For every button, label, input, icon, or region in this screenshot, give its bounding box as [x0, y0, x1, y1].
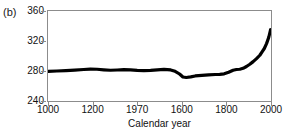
x-axis-tick-mark	[93, 102, 94, 106]
x-axis-tick-mark	[48, 102, 49, 106]
x-axis-tick-mark	[182, 102, 183, 106]
y-axis-title: Atmospheric pCO2 (µatm)	[0, 8, 1, 100]
y-axis-tick-mark	[41, 71, 46, 72]
x-axis-title: Calendar year	[47, 118, 272, 130]
y-axis-tick-mark	[41, 101, 46, 102]
series-line-atmospheric-pco2	[48, 30, 271, 78]
y-axis-tick-mark	[41, 11, 46, 12]
data-line-chart	[48, 11, 271, 101]
y-axis-tick-mark	[41, 41, 46, 42]
x-axis-tick-mark	[271, 102, 272, 106]
x-axis-tick-label: 2000	[251, 104, 283, 115]
plot-area	[47, 10, 272, 102]
figure-panel-b: (b) Atmospheric pCO2 (µatm) 240280320360…	[0, 0, 283, 134]
x-axis-tick-mark	[137, 102, 138, 106]
x-axis-tick-mark	[226, 102, 227, 106]
